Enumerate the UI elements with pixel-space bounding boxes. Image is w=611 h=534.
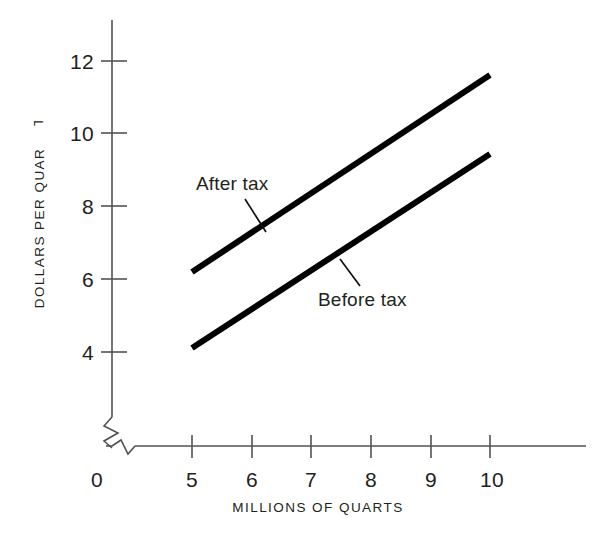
x-tick-label-8: 8 — [365, 468, 377, 491]
x-tick-label-10: 10 — [480, 468, 504, 491]
y-axis-title-cut-letter-group: T — [31, 118, 46, 126]
y-axis-title: DOLLARS PER QUAR — [32, 148, 47, 309]
y-axis-title-group: DOLLARS PER QUAR — [32, 148, 47, 309]
y-tick-label-12: 12 — [70, 50, 94, 73]
annotation-before-tax-group: Before tax — [318, 259, 407, 310]
y-tick-label-8: 8 — [82, 195, 94, 218]
x-tick-label-6: 6 — [246, 468, 258, 491]
x-axis-group: 0 5 6 7 8 9 10 MILLIONS OF QUARTS — [91, 435, 586, 515]
line-chart: 12 10 8 6 4 DOLLARS PER QUAR T — [0, 0, 611, 534]
series-label-after-tax: After tax — [196, 173, 269, 194]
chart-figure: 12 10 8 6 4 DOLLARS PER QUAR T — [0, 0, 611, 534]
y-tick-label-6: 6 — [82, 268, 94, 291]
y-axis-title-cut-letter: T — [31, 118, 46, 126]
x-tick-label-7: 7 — [305, 468, 317, 491]
y-tick-label-4: 4 — [82, 341, 94, 364]
y-tick-label-10: 10 — [70, 122, 94, 145]
series-label-before-tax: Before tax — [318, 289, 407, 310]
x-axis-title: MILLIONS OF QUARTS — [232, 500, 403, 515]
annotation-after-tax-group: After tax — [196, 173, 269, 232]
x-axis-break-icon — [112, 440, 135, 454]
x-origin-label: 0 — [91, 468, 103, 491]
leader-line-before-tax — [340, 259, 360, 286]
x-tick-label-9: 9 — [425, 468, 437, 491]
y-axis-group: 12 10 8 6 4 DOLLARS PER QUAR T — [31, 20, 127, 448]
x-tick-label-5: 5 — [186, 468, 198, 491]
